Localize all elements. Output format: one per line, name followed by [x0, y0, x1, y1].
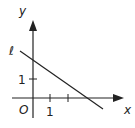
x-axis-label: x — [123, 103, 132, 117]
x-axis-arrow-icon — [113, 94, 124, 102]
line-label: ℓ — [8, 44, 14, 58]
origin-label: O — [19, 103, 28, 117]
y-axis-arrow-icon — [29, 20, 37, 31]
y-tick-label: 1 — [18, 73, 26, 87]
coordinate-plane: y x O 1 1 ℓ — [0, 0, 135, 128]
x-tick-label: 1 — [46, 105, 54, 119]
y-axis-label: y — [18, 4, 27, 18]
